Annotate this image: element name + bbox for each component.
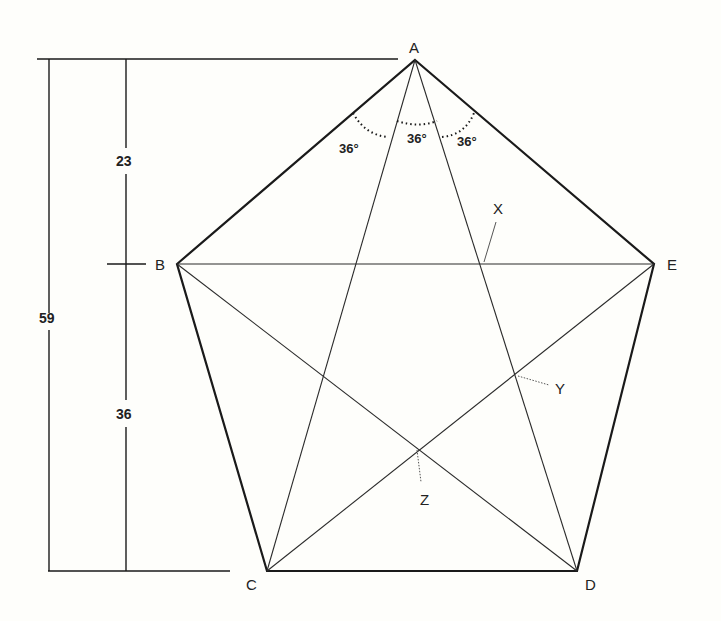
dimension-lines [37,59,398,571]
diagonal-EC [267,264,654,571]
point-label-Z: Z [420,491,429,508]
pentagon-diagram: A B C D E X Y Z 36° 36° 36° 23 36 59 [0,0,721,621]
diagram-canvas: A B C D E X Y Z 36° 36° 36° 23 36 59 [0,0,721,621]
diagonal-BD [177,264,577,571]
diagonal-AD [415,60,577,571]
leader-Z [417,450,421,482]
angle-label-middle: 36° [407,131,427,146]
dimension-label-lower: 36 [116,406,132,422]
vertex-label-D: D [585,576,596,593]
point-label-Y: Y [555,380,565,397]
angle-arc-left [353,113,388,137]
angle-label-right: 36° [457,134,477,149]
angle-label-left: 36° [339,141,359,156]
dimension-label-total: 59 [39,310,55,326]
vertex-label-C: C [246,576,257,593]
vertex-label-E: E [667,256,677,273]
dimension-label-upper: 23 [116,153,132,169]
point-label-X: X [493,200,503,217]
leader-Y [518,376,549,385]
vertex-label-A: A [409,39,419,56]
vertex-label-B: B [155,256,165,273]
leader-X [484,222,496,262]
angle-arc-middle [397,121,437,125]
leader-lines [417,222,549,482]
diagonal-AC [267,60,415,571]
